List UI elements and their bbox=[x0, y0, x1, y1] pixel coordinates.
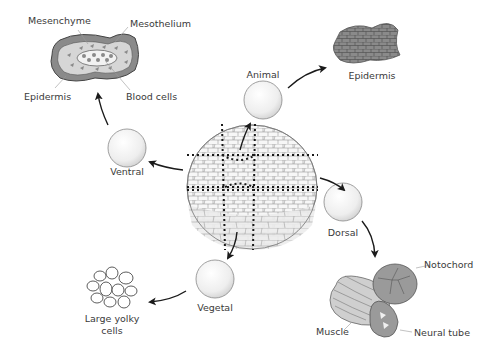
mesothelium-label: Mesothelium bbox=[130, 18, 191, 29]
blastula bbox=[187, 124, 318, 250]
ventral-tissue-section: Mesenchyme Mesothelium Epidermis Blood c… bbox=[24, 15, 191, 102]
animal-label: Animal bbox=[247, 69, 280, 80]
large-yolky-label-line2: cells bbox=[101, 325, 122, 336]
notochord-label: Notochord bbox=[424, 259, 473, 270]
blood-cells-label: Blood cells bbox=[126, 91, 177, 102]
mesenchyme-label: Mesenchyme bbox=[28, 15, 91, 26]
arrow-to-axial-tissues bbox=[362, 221, 375, 256]
ventral-cap bbox=[108, 129, 146, 167]
arrow-to-yolky-cells bbox=[150, 291, 186, 302]
vegetal-explant: Vegetal bbox=[196, 260, 234, 313]
epidermis-tissue: Epidermis bbox=[333, 23, 400, 81]
large-yolky-cells bbox=[87, 267, 137, 308]
large-yolky-label-line1: Large yolky bbox=[85, 313, 140, 324]
arrow-to-ventral bbox=[150, 162, 183, 170]
epidermis-ventral-label: Epidermis bbox=[24, 91, 71, 102]
neural-tube-label: Neural tube bbox=[414, 327, 470, 338]
dorsal-label: Dorsal bbox=[328, 227, 358, 238]
neural-tube-shape bbox=[370, 301, 398, 337]
dorsal-explant: Dorsal bbox=[324, 183, 362, 238]
ventral-explant: Ventral bbox=[108, 129, 146, 177]
vegetal-cap bbox=[196, 260, 234, 298]
muscle-label: Muscle bbox=[316, 326, 349, 337]
arrow-to-epidermis bbox=[288, 68, 325, 88]
animal-explant: Animal bbox=[244, 69, 282, 119]
animal-cap bbox=[244, 81, 282, 119]
arrow-to-mesoderm bbox=[98, 94, 108, 125]
notochord-shape bbox=[373, 264, 417, 304]
vegetal-label: Vegetal bbox=[197, 302, 233, 313]
ventral-label: Ventral bbox=[110, 166, 144, 177]
epidermis-animal-label: Epidermis bbox=[348, 70, 395, 81]
cell-fate-diagram: Animal Epidermis Ventral bbox=[0, 0, 486, 351]
dorsal-tissues: Notochord Muscle Neural tube bbox=[316, 259, 473, 338]
